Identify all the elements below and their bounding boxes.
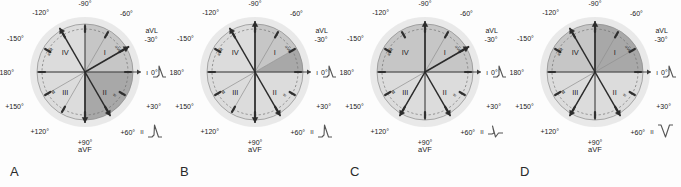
avf-label: aVF (78, 145, 92, 154)
angle-label--120: -120° (32, 9, 49, 16)
angle-label-30: +30° (656, 103, 671, 110)
angle-label--90: -90° (249, 0, 262, 7)
angle-label-150: +150° (175, 103, 194, 110)
angle-label-120: +120° (30, 128, 49, 135)
angle-label-120: +120° (370, 128, 389, 135)
angle-label--120: -120° (542, 9, 559, 16)
angle-label-30: +30° (146, 103, 161, 110)
angle-label-150: +150° (515, 103, 534, 110)
angle-label-120: +120° (540, 128, 559, 135)
avf-label: aVF (418, 145, 432, 154)
avf-label: aVF (588, 145, 602, 154)
lead-two-waveform (658, 125, 673, 137)
angle-label-180: ±180° (170, 69, 184, 76)
avl-label: aVL (315, 27, 328, 34)
avf-label: aVF (248, 145, 262, 154)
angle-label-30: +30° (316, 103, 331, 110)
angle-label-60: +60° (461, 129, 476, 136)
panel-b: aVRaVLIIIIIIIIIIIIV-90°-120°-150°±180°+1… (170, 0, 340, 187)
lead-two-label: II (310, 129, 314, 135)
quadrant-label-I: I (614, 48, 616, 57)
axis-circle-c: aVRaVLIIIIIIIIIIIIV-90°-120°-150°±180°+1… (340, 0, 510, 160)
angle-label-30: +30° (486, 103, 501, 110)
panel-a: aVRaVLIIIIIIIIIIIIV-90°-120°-150°±180°+1… (0, 0, 170, 187)
axis-circle-d: aVRaVLIIIIIIIIIIIIV-90°-120°-150°±180°+1… (510, 0, 680, 160)
angle-label--90: -90° (419, 0, 432, 7)
angle-label--120: -120° (202, 9, 219, 16)
quadrant-label-IV: IV (62, 48, 69, 57)
lead-two-waveform (318, 125, 332, 137)
lead-two-waveform (488, 126, 503, 137)
angle-label-0: 0° (321, 69, 328, 76)
lead-two-label: II (480, 129, 484, 135)
quadrant-label-II: II (103, 88, 107, 97)
angle-label--150: -150° (177, 35, 194, 42)
lead-one-label: I (486, 70, 488, 76)
angle-label--30: -30° (655, 36, 668, 43)
quadrant-label-II: II (613, 88, 617, 97)
panel-letter-c: C (350, 164, 359, 179)
panel-letter-d: D (520, 164, 529, 179)
quadrant-label-IV: IV (402, 48, 409, 57)
angle-label-60: +60° (291, 129, 306, 136)
avl-label: aVL (485, 27, 498, 34)
angle-label--30: -30° (145, 36, 158, 43)
angle-label-120: +120° (200, 128, 219, 135)
panel-d: aVRaVLIIIIIIIIIIIIV-90°-120°-150°±180°+1… (510, 0, 680, 187)
angle-label-150: +150° (5, 103, 24, 110)
panel-letter-b: B (180, 164, 189, 179)
avl-label: aVL (655, 27, 668, 34)
angle-label--120: -120° (372, 9, 389, 16)
angle-label-180: ±180° (510, 69, 524, 76)
panel-c: aVRaVLIIIIIIIIIIIIV-90°-120°-150°±180°+1… (340, 0, 510, 187)
quadrant-label-I: I (444, 48, 446, 57)
lead-two-label: II (650, 129, 654, 135)
quadrant-label-III: III (402, 88, 408, 97)
lead-two-label: II (140, 129, 144, 135)
angle-label--60: -60° (460, 10, 473, 17)
quadrant-label-III: III (62, 88, 68, 97)
quadrant-label-III: III (232, 88, 238, 97)
angle-label-60: +60° (631, 129, 646, 136)
quadrant-label-IV: IV (232, 48, 239, 57)
angle-label--90: -90° (79, 0, 92, 7)
quadrant-label-III: III (572, 88, 578, 97)
quadrant-label-I: I (104, 48, 106, 57)
lead-one-label: I (316, 70, 318, 76)
axis-circle-b: aVRaVLIIIIIIIIIIIIV-90°-120°-150°±180°+1… (170, 0, 340, 160)
angle-label--60: -60° (630, 10, 643, 17)
axis-circle-a: aVRaVLIIIIIIIIIIIIV-90°-120°-150°±180°+1… (0, 0, 170, 160)
angle-label--30: -30° (315, 36, 328, 43)
angle-label-60: +60° (121, 129, 136, 136)
angle-label--60: -60° (290, 10, 303, 17)
quadrant-label-II: II (273, 88, 277, 97)
angle-label-0: 0° (661, 69, 668, 76)
angle-label-0: 0° (491, 69, 498, 76)
angle-label-180: ±180° (0, 69, 14, 76)
quadrant-label-I: I (274, 48, 276, 57)
panel-letter-a: A (10, 164, 19, 179)
angle-label-150: +150° (345, 103, 364, 110)
angle-label--60: -60° (120, 10, 133, 17)
angle-label--150: -150° (517, 35, 534, 42)
angle-label-180: ±180° (340, 69, 354, 76)
angle-label--150: -150° (7, 35, 24, 42)
sector-0 (595, 24, 643, 72)
angle-label--30: -30° (485, 36, 498, 43)
lead-two-waveform (148, 125, 162, 137)
ecg-axis-figure: aVRaVLIIIIIIIIIIIIV-90°-120°-150°±180°+1… (0, 0, 681, 187)
angle-label--150: -150° (347, 35, 364, 42)
angle-label-0: 0° (151, 69, 158, 76)
angle-label--90: -90° (589, 0, 602, 7)
lead-one-label: I (656, 70, 658, 76)
lead-one-label: I (146, 70, 148, 76)
avl-label: aVL (145, 27, 158, 34)
quadrant-label-IV: IV (572, 48, 579, 57)
quadrant-label-II: II (443, 88, 447, 97)
